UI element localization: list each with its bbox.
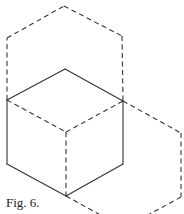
right-hex-bottom-right-edge: [124, 197, 181, 214]
cube-bottom-left-edge: [7, 164, 66, 196]
upper-hex-right-edge: [122, 36, 123, 101]
cube-top-right-edge: [65, 69, 123, 101]
cube-bottom-right-edge: [66, 164, 123, 196]
visible-edges: [7, 69, 123, 196]
hidden-left-edge: [7, 100, 66, 132]
upper-hex-top-left-edge: [7, 6, 64, 38]
right-hex-top-edge: [123, 101, 181, 133]
isometric-cube-figure: Fig. 6.: [0, 0, 184, 214]
figure-caption: Fig. 6.: [6, 196, 40, 209]
right-hex-bottom-left-edge: [66, 196, 124, 214]
cube-top-left-edge: [7, 69, 65, 100]
cube-diagram: [0, 0, 184, 214]
hidden-right-edge: [66, 101, 123, 132]
upper-hex-top-right-edge: [64, 6, 122, 36]
hidden-and-construction-edges: [7, 6, 181, 214]
